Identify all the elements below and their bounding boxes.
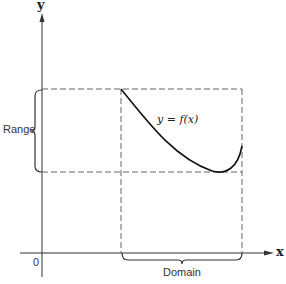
origin-label: 0 (33, 256, 39, 268)
x-axis-arrow-icon (264, 251, 274, 256)
x-axis-label: x (276, 244, 284, 259)
domain-range-diagram (0, 0, 286, 284)
function-label: y = f(x) (157, 113, 198, 126)
y-axis-label: y (37, 0, 45, 12)
domain-brace (122, 253, 242, 264)
y-axis-arrow-icon (40, 13, 45, 22)
function-curve (121, 89, 242, 172)
range-label: Range (3, 123, 35, 135)
domain-label: Domain (163, 266, 201, 278)
